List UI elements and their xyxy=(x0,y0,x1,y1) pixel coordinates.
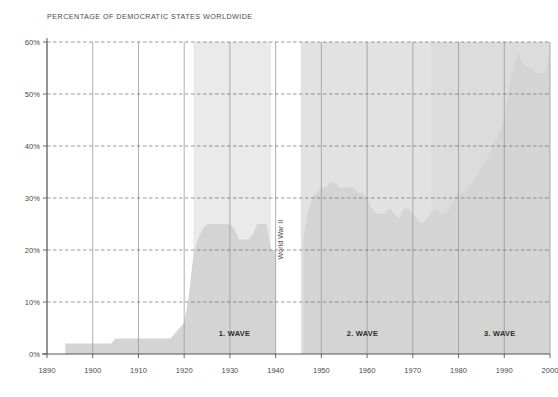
wave-label: 2. WAVE xyxy=(347,329,379,338)
x-axis-tick-label: 1930 xyxy=(221,366,238,375)
x-axis-tick-labels: 1890190019101920193019401950196019701980… xyxy=(39,354,558,375)
x-axis-tick-label: 1990 xyxy=(496,366,513,375)
x-axis-tick-label: 1900 xyxy=(84,366,101,375)
y-axis-tick-label: 30% xyxy=(25,194,40,203)
wave-label: 3. WAVE xyxy=(484,329,516,338)
wave-label: 1. WAVE xyxy=(219,329,251,338)
y-axis-tick-label: 20% xyxy=(25,246,40,255)
x-axis-tick-label: 1980 xyxy=(450,366,467,375)
world-war-2-label: World War II xyxy=(276,220,285,260)
x-axis-tick-label: 1950 xyxy=(313,366,330,375)
y-axis-tick-label: 60% xyxy=(25,38,40,47)
x-axis-tick-label: 1890 xyxy=(39,366,56,375)
x-axis-tick-label: 1970 xyxy=(404,366,421,375)
x-axis-tick-label: 1920 xyxy=(176,366,193,375)
y-axis-tick-label: 10% xyxy=(25,298,40,307)
y-axis-tick-label: 50% xyxy=(25,90,40,99)
x-axis-tick-label: 1910 xyxy=(130,366,147,375)
y-axis-tick-label: 40% xyxy=(25,142,40,151)
y-axis-tick-label: 0% xyxy=(29,350,40,359)
x-axis-tick-label: 1940 xyxy=(267,366,284,375)
chart-plot-area: 0%10%20%30%40%50%60% 1890190019101920193… xyxy=(0,0,558,397)
x-axis-tick-label: 2000 xyxy=(542,366,558,375)
chart-container: PERCENTAGE OF DEMOCRATIC STATES WORLDWID… xyxy=(0,0,558,397)
x-axis-tick-label: 1960 xyxy=(359,366,376,375)
y-axis-tick-labels: 0%10%20%30%40%50%60% xyxy=(25,38,47,359)
